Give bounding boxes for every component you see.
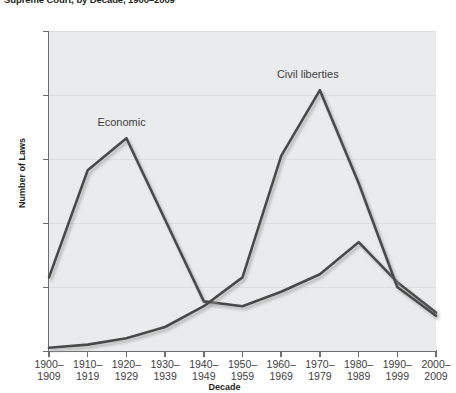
x-tick-mark [164, 351, 166, 357]
series-label-civil-liberties: Civil liberties [277, 68, 339, 80]
x-tick-mark [48, 351, 50, 357]
y-tick-mark [43, 95, 48, 97]
x-tick-mark [203, 351, 205, 357]
y-tick-mark [43, 287, 48, 289]
x-tick-mark [358, 351, 360, 357]
x-tick-mark [319, 351, 321, 357]
series-svg [49, 31, 436, 351]
x-tick-mark [242, 351, 244, 357]
y-axis-label: Number of Laws [17, 129, 27, 217]
y-tick-mark [43, 31, 48, 33]
x-axis-label: Decade [0, 382, 449, 392]
y-tick-mark [43, 223, 48, 225]
x-tick-mark [87, 351, 89, 357]
y-tick-mark [43, 159, 48, 161]
y-tick-mark [43, 351, 48, 353]
series-label-economic: Economic [97, 116, 145, 128]
x-tick-mark [435, 351, 437, 357]
x-tick-mark [126, 351, 128, 357]
x-tick-mark [397, 351, 399, 357]
series-line-civil-liberties [49, 90, 436, 348]
plot-area: Economic Civil liberties [49, 31, 436, 351]
series-line-economic [49, 138, 436, 312]
x-tick-mark [280, 351, 282, 357]
x-tick-label: 2000–2009 [413, 359, 456, 382]
chart-title: Supreme Court, by Decade, 1900–2009 [4, 0, 175, 5]
